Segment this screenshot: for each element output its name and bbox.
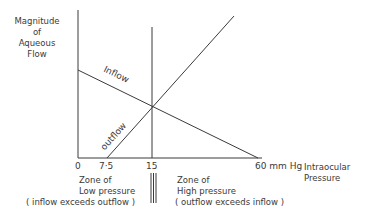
- x-tick-15: 15: [146, 161, 157, 171]
- y-axis-label-line: of: [4, 27, 70, 38]
- y-axis-label-line: Magnitude: [4, 16, 70, 27]
- high-zone-title: Zone of: [177, 175, 210, 186]
- low-zone-title: Zone of: [79, 175, 112, 186]
- y-axis-label-line: Aqueous: [4, 38, 70, 49]
- x-axis-label-line: Pressure: [304, 173, 350, 184]
- high-zone-subtitle: High pressure: [177, 186, 236, 197]
- low-zone-subtitle: Low pressure: [79, 186, 135, 197]
- y-axis-label: Magnitude of Aqueous Flow: [4, 16, 70, 60]
- x-axis-label-line: Intraocular: [304, 162, 350, 173]
- x-tick-7-5: 7·5: [99, 161, 113, 171]
- x-tick-0: 0: [75, 161, 81, 171]
- x-tick-60: 60 mm Hg: [255, 161, 302, 171]
- high-zone-note: ( outflow exceeds inflow ): [175, 197, 284, 208]
- low-zone-note: ( inflow exceeds outflow ): [26, 197, 135, 208]
- y-axis-label-line: Flow: [4, 49, 70, 60]
- x-axis-label: Intraocular Pressure: [304, 162, 350, 184]
